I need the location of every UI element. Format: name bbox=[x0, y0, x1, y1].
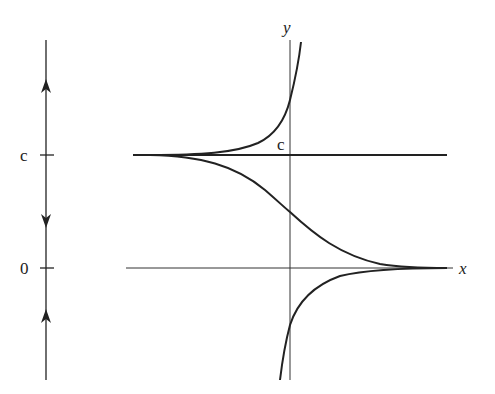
y-axis-label: y bbox=[281, 18, 291, 37]
tick-label-0: 0 bbox=[20, 259, 29, 278]
equilibrium-label-c: c bbox=[277, 135, 285, 154]
tick-label-c: c bbox=[20, 146, 28, 165]
solution-plot: y x c bbox=[126, 18, 467, 380]
phase-line: c 0 bbox=[20, 40, 54, 380]
diagram: c 0 y x c bbox=[0, 0, 495, 394]
figure-svg: c 0 y x c bbox=[0, 0, 495, 394]
curve-between-0-c bbox=[150, 155, 447, 268]
curve-below-0 bbox=[280, 268, 447, 380]
x-axis-label: x bbox=[458, 259, 467, 278]
